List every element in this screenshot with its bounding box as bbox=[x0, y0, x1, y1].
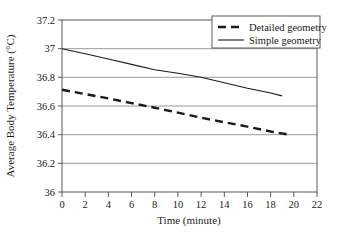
legend-label-detailed-geometry: Detailed geometry bbox=[249, 22, 328, 33]
line-chart: 36 36.2 36.4 36.6 36.8 37 37.2 0 2 4 6 8… bbox=[0, 0, 354, 240]
legend-label-simple-geometry: Simple geometry bbox=[249, 35, 322, 46]
x-tick-label-16: 16 bbox=[242, 199, 253, 210]
x-tick-label-18: 18 bbox=[265, 199, 276, 210]
x-tick-label-14: 14 bbox=[219, 199, 230, 210]
x-tick-label-10: 10 bbox=[173, 199, 184, 210]
y-tick-label-36.2: 36.2 bbox=[37, 158, 55, 169]
y-tick-label-36.4: 36.4 bbox=[37, 129, 56, 140]
y-tick-label-36.8: 36.8 bbox=[37, 72, 55, 83]
y-tick-label-37: 37 bbox=[45, 43, 56, 54]
x-tick-label-6: 6 bbox=[129, 199, 134, 210]
x-tick-label-8: 8 bbox=[152, 199, 157, 210]
x-tick-label-12: 12 bbox=[196, 199, 207, 210]
x-tick-label-2: 2 bbox=[83, 199, 88, 210]
y-tick-label-36.6: 36.6 bbox=[37, 101, 55, 112]
y-tick-label-37.2: 37.2 bbox=[37, 15, 55, 26]
y-axis-title: Average Body Temperature (°C) bbox=[4, 34, 17, 177]
legend: Detailed geometry Simple geometry bbox=[212, 16, 328, 48]
x-tick-label-20: 20 bbox=[289, 199, 300, 210]
x-tick-label-4: 4 bbox=[106, 199, 112, 210]
y-tick-label-36: 36 bbox=[45, 187, 56, 198]
x-axis-title: Time (minute) bbox=[157, 214, 221, 227]
x-tick-label-0: 0 bbox=[59, 199, 64, 210]
x-tick-label-22: 22 bbox=[312, 199, 323, 210]
chart-figure: 36 36.2 36.4 36.6 36.8 37 37.2 0 2 4 6 8… bbox=[0, 0, 354, 240]
